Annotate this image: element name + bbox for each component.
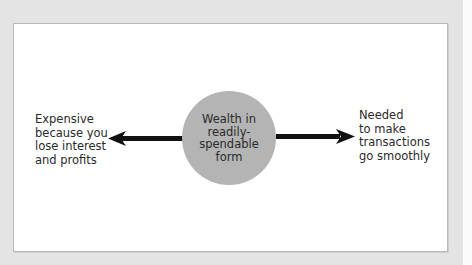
left-label: Expensive because you lose interest and … [35,113,108,167]
left-arrow-icon [108,131,183,146]
center-label: Wealth in readily- spendable form [199,113,259,163]
right-arrow-icon [276,129,355,144]
center-circle: Wealth in readily- spendable form [182,91,276,185]
right-label: Needed to make transactions go smoothly [359,109,430,163]
